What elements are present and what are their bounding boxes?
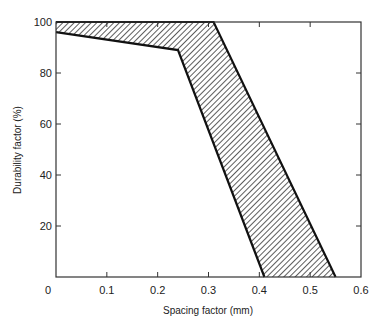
x-tick-label: 0.5 <box>303 284 318 296</box>
y-axis-title: Durability factor (%) <box>12 106 23 194</box>
y-axis-tick-labels: 20406080100 <box>34 16 52 232</box>
y-tick-label: 100 <box>34 16 52 28</box>
x-axis-title: Spacing factor (mm) <box>163 305 253 316</box>
x-tick-label: 0.6 <box>353 284 368 296</box>
x-tick-label: 0.1 <box>99 284 114 296</box>
x-tick-label: 0.3 <box>201 284 216 296</box>
x-tick-label: 0.4 <box>252 284 267 296</box>
x-axis-tick-labels: 00.10.20.30.40.50.6 <box>45 284 369 296</box>
y-tick-label: 20 <box>40 220 52 232</box>
hatched-region <box>56 22 336 277</box>
x-tick-label: 0.2 <box>150 284 165 296</box>
durability-band <box>56 22 336 277</box>
y-tick-label: 40 <box>40 169 52 181</box>
x-tick-label: 0 <box>45 284 51 296</box>
y-tick-label: 80 <box>40 67 52 79</box>
y-tick-label: 60 <box>40 118 52 130</box>
chart: 00.10.20.30.40.50.6 20406080100 Spacing … <box>0 0 382 332</box>
